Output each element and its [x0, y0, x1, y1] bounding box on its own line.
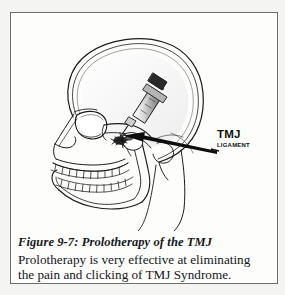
mandible-ramus [141, 139, 150, 202]
skull-syringe-illustration [11, 13, 278, 231]
caption-body: Prolotherapy is very effective at elimin… [18, 252, 273, 283]
mastoid-process [159, 163, 168, 180]
caption-title: Figure 9-7: Prolotherapy of the TMJ [18, 235, 273, 250]
illustration-area [11, 13, 278, 231]
nasal-spine [54, 144, 56, 159]
figure-frame: TMJ Ligament Figure 9-7: Prolotherapy of… [10, 12, 278, 284]
nasal-bone [55, 114, 74, 144]
maxilla [56, 159, 125, 165]
caption-body-line-1: Prolotherapy is very effective at elimin… [18, 252, 273, 267]
neck-outline [174, 150, 185, 231]
mandible-body [59, 190, 142, 209]
caption-block: Figure 9-7: Prolotherapy of the TMJ Prol… [11, 235, 278, 283]
figure-page: TMJ Ligament Figure 9-7: Prolotherapy of… [0, 0, 285, 295]
injection-site-blot [114, 136, 127, 144]
callout-line-2: Ligament [217, 140, 250, 149]
neck-front-line [138, 165, 156, 231]
caption-body-line-2: the pain and clicking of TMJ Syndrome. [18, 267, 273, 282]
tmj-ligament-callout: TMJ Ligament [217, 128, 250, 150]
orbit-outline [75, 111, 106, 139]
lower-teeth [56, 177, 133, 192]
